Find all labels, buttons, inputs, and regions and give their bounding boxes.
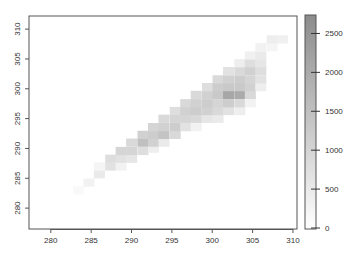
colorbar-tick-label: 500 <box>325 185 339 194</box>
heatmap-cell <box>105 155 116 163</box>
heatmap-cell <box>255 75 266 83</box>
heatmap-cell <box>234 99 245 107</box>
heatmap-cell <box>202 83 213 91</box>
heatmap-cell <box>202 107 213 115</box>
heatmap-cell <box>180 123 191 131</box>
heatmap-cell <box>255 51 266 59</box>
x-axis: 280285290295300305310 <box>44 229 300 245</box>
heatmap-cell <box>213 107 224 115</box>
heatmap-cell <box>245 59 256 67</box>
heatmap-cell <box>245 51 256 59</box>
colorbar-tick-label: 0 <box>325 224 330 233</box>
x-tick-label: 300 <box>206 236 220 245</box>
heatmap-cell <box>267 43 278 51</box>
y-tick-label: 290 <box>13 141 22 155</box>
heatmap-cell <box>213 99 224 107</box>
heatmap-cell <box>137 147 148 155</box>
heatmap-cell <box>213 75 224 83</box>
heatmap-cell <box>158 123 169 131</box>
heatmap-cell <box>245 91 256 99</box>
x-tick-label: 310 <box>286 236 300 245</box>
heatmap-cell <box>170 123 181 131</box>
heatmap-cell <box>213 83 224 91</box>
heatmap-cell <box>213 115 224 123</box>
heatmap-cell <box>245 83 256 91</box>
heatmap-cell <box>277 35 288 43</box>
heatmap-cell <box>116 155 127 163</box>
heatmap-cell <box>223 75 234 83</box>
heatmap-cell <box>83 178 94 186</box>
heatmap-cell <box>234 75 245 83</box>
heatmap-cell <box>170 107 181 115</box>
heatmap-cell <box>126 155 137 163</box>
heatmap-cell <box>116 162 127 170</box>
heatmap-cell <box>191 99 202 107</box>
y-tick-label: 295 <box>13 111 22 125</box>
heatmap-cell <box>126 147 137 155</box>
heatmap-cell <box>137 131 148 139</box>
y-tick-label: 285 <box>13 171 22 185</box>
heatmap-cell <box>255 43 266 51</box>
x-tick-label: 280 <box>44 236 58 245</box>
heatmap-cell <box>191 107 202 115</box>
colorbar <box>305 15 316 229</box>
heatmap-cell <box>126 139 137 147</box>
heatmap-cell <box>170 131 181 139</box>
heatmap-cell <box>255 67 266 75</box>
heatmap-cell <box>137 139 148 147</box>
x-tick-label: 295 <box>165 236 179 245</box>
heatmap-chart: 280285290295300305310 280285290295300305… <box>0 0 354 256</box>
heatmap-cell <box>234 59 245 67</box>
heatmap-cell <box>202 115 213 123</box>
heatmap-cell <box>158 115 169 123</box>
x-tick-label: 290 <box>125 236 139 245</box>
x-tick-label: 305 <box>246 236 260 245</box>
heatmap-cell <box>191 115 202 123</box>
heatmap-cell <box>234 67 245 75</box>
y-tick-label: 280 <box>13 201 22 215</box>
heatmap-cell <box>191 91 202 99</box>
heatmap-cell <box>180 99 191 107</box>
heatmap-cell <box>94 170 105 178</box>
heatmap-cell <box>213 91 224 99</box>
heatmap-cell <box>148 123 159 131</box>
heatmap-cell <box>180 115 191 123</box>
heatmap-cell <box>180 107 191 115</box>
heatmap-cell <box>191 123 202 131</box>
heatmap-cell <box>116 147 127 155</box>
heatmap-cell <box>245 67 256 75</box>
y-tick-label: 305 <box>13 52 22 66</box>
colorbar-tick-label: 1000 <box>325 146 343 155</box>
heatmap-cells <box>73 35 288 194</box>
colorbar-tick-label: 1500 <box>325 107 343 116</box>
heatmap-cell <box>255 83 266 91</box>
heatmap-cell <box>105 162 116 170</box>
colorbar-tick-label: 2000 <box>325 68 343 77</box>
heatmap-cell <box>223 67 234 75</box>
heatmap-cell <box>223 83 234 91</box>
x-tick-label: 285 <box>84 236 98 245</box>
heatmap-cell <box>202 91 213 99</box>
y-tick-label: 310 <box>13 22 22 36</box>
y-tick-label: 300 <box>13 82 22 96</box>
heatmap-cell <box>223 99 234 107</box>
heatmap-cell <box>73 186 84 194</box>
heatmap-cell <box>267 35 278 43</box>
heatmap-cell <box>170 115 181 123</box>
heatmap-cell <box>223 107 234 115</box>
heatmap-cell <box>94 162 105 170</box>
colorbar-tick-label: 2500 <box>325 29 343 38</box>
heatmap-cell <box>148 131 159 139</box>
heatmap-cell <box>202 99 213 107</box>
heatmap-cell <box>255 59 266 67</box>
heatmap-cell <box>234 83 245 91</box>
heatmap-cell <box>148 139 159 147</box>
heatmap-cell <box>245 75 256 83</box>
heatmap-cell <box>234 107 245 115</box>
heatmap-cell <box>234 91 245 99</box>
heatmap-cell <box>223 91 234 99</box>
heatmap-cell <box>245 99 256 107</box>
y-axis: 280285290295300305310 <box>13 22 29 215</box>
heatmap-cell <box>158 139 169 147</box>
heatmap-cell <box>158 131 169 139</box>
